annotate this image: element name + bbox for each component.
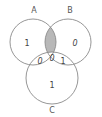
set-b-label: B: [67, 6, 73, 15]
region-b-only-value: 0: [72, 39, 77, 48]
region-a-and-c-value: 0: [37, 57, 42, 66]
region-a-only-value: 1: [24, 39, 29, 48]
region-c-only-value: 1: [49, 81, 54, 90]
set-a-label: A: [31, 6, 37, 15]
venn-diagram: A B C 1 0 1 0 0 1: [0, 0, 102, 117]
region-a-b-c-value: 0: [49, 54, 54, 63]
region-b-and-c-value: 1: [60, 57, 65, 66]
set-c-label: C: [49, 106, 55, 115]
